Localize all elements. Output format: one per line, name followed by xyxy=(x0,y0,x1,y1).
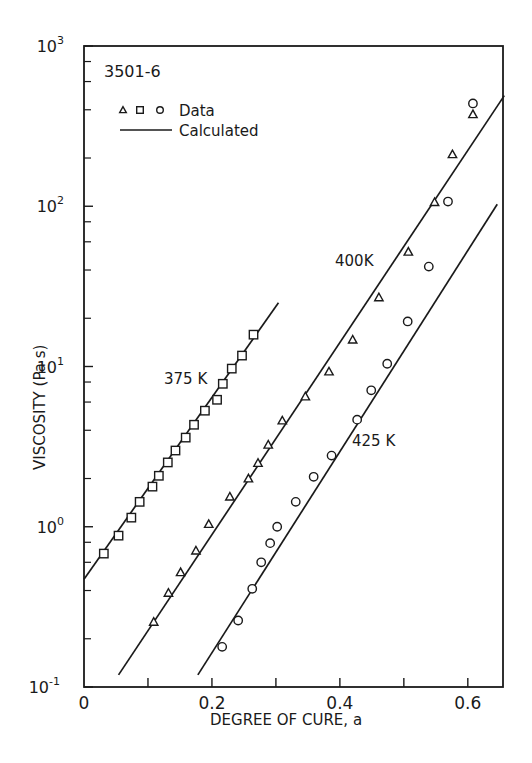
y-tick-label: 10-1 xyxy=(29,675,60,697)
triangle-marker-icon xyxy=(192,546,200,554)
calculated-line-425k xyxy=(198,204,497,675)
circle-marker-icon xyxy=(218,643,226,651)
square-marker-icon xyxy=(228,364,236,372)
square-marker-icon xyxy=(127,513,135,521)
circle-marker-icon xyxy=(273,523,281,531)
y-tick-label: 100 xyxy=(37,515,64,537)
circle-marker-icon xyxy=(403,317,411,325)
square-marker-icon xyxy=(171,446,179,454)
circle-marker-icon xyxy=(444,197,452,205)
circle-marker-icon xyxy=(425,262,433,270)
legend-label-calculated: Calculated xyxy=(179,122,259,140)
circle-marker-icon xyxy=(353,415,361,423)
triangle-marker-icon xyxy=(164,589,172,597)
square-marker-icon xyxy=(213,396,221,404)
circle-marker-icon xyxy=(257,558,265,566)
circle-marker-icon xyxy=(292,498,300,506)
square-marker-icon xyxy=(238,351,246,359)
circle-marker-icon xyxy=(367,386,375,394)
triangle-marker-icon xyxy=(120,107,127,113)
x-tick-label: 0 xyxy=(79,693,90,713)
material-label: 3501-6 xyxy=(104,62,161,81)
square-marker-icon xyxy=(100,549,108,557)
legend: Data Calculated xyxy=(120,102,259,140)
y-tick-label: 103 xyxy=(37,34,64,56)
calculated-lines xyxy=(84,96,504,675)
triangle-marker-icon xyxy=(375,293,383,301)
circle-marker-icon xyxy=(309,473,317,481)
x-tick-label: 0.6 xyxy=(454,693,481,713)
square-marker-icon xyxy=(135,498,143,506)
triangle-marker-icon xyxy=(469,110,477,118)
legend-markers xyxy=(120,107,164,114)
series-label-400k: 400K xyxy=(335,252,375,270)
triangle-marker-icon xyxy=(176,568,184,576)
square-marker-icon xyxy=(114,531,122,539)
plot-border xyxy=(84,46,503,687)
x-tick-label: 0.4 xyxy=(326,693,353,713)
triangle-marker-icon xyxy=(348,335,356,343)
triangle-marker-icon xyxy=(404,248,412,256)
square-marker-icon xyxy=(148,482,156,490)
square-marker-icon xyxy=(190,421,198,429)
square-marker-icon xyxy=(137,107,144,114)
x-axis-label: DEGREE OF CURE, a xyxy=(210,711,362,729)
square-marker-icon xyxy=(219,380,227,388)
circle-marker-icon xyxy=(248,585,256,593)
triangle-marker-icon xyxy=(325,367,333,375)
circle-marker-icon xyxy=(383,360,391,368)
x-tick-label: 0.2 xyxy=(198,693,225,713)
triangle-marker-icon xyxy=(226,492,234,500)
square-marker-icon xyxy=(249,330,257,338)
circle-marker-icon xyxy=(234,616,242,624)
viscosity-chart: 10-1100101102103 00.20.40.6 3501-6 Data … xyxy=(0,0,532,763)
circle-marker-icon xyxy=(266,539,274,547)
square-marker-icon xyxy=(182,433,190,441)
triangle-marker-icon xyxy=(430,198,438,206)
x-axis-ticks: 00.20.40.6 xyxy=(79,678,482,713)
square-marker-icon xyxy=(164,458,172,466)
legend-label-data: Data xyxy=(179,102,215,120)
series-label-425k: 425 K xyxy=(352,432,396,450)
triangle-marker-icon xyxy=(301,392,309,400)
triangle-marker-icon xyxy=(205,520,213,528)
triangle-marker-icon xyxy=(448,150,456,158)
y-axis-label: VISCOSITY (Pa s) xyxy=(31,345,49,470)
square-marker-icon xyxy=(201,406,209,414)
circle-marker-icon xyxy=(327,451,335,459)
circle-marker-icon xyxy=(469,99,477,107)
triangle-marker-icon xyxy=(278,416,286,424)
y-tick-label: 102 xyxy=(37,194,64,216)
square-marker-icon xyxy=(155,472,163,480)
circle-marker-icon xyxy=(157,107,164,114)
series-label-375k: 375 K xyxy=(164,370,208,388)
plot-frame xyxy=(84,46,503,687)
data-points xyxy=(100,99,478,651)
